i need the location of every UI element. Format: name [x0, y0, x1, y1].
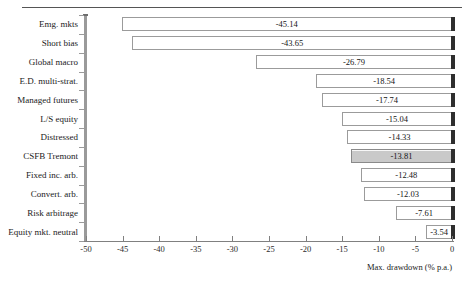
bar-value-label: -26.79	[257, 58, 451, 67]
x-axis-tick-label: -40	[154, 244, 165, 254]
y-axis-tick	[79, 222, 84, 223]
bar-value-label: -7.61	[397, 208, 451, 217]
x-axis-tick-label: -15	[337, 244, 348, 254]
x-axis-tick-label: -45	[117, 244, 128, 254]
category-label: E.D. multi-strat.	[2, 76, 78, 86]
bar-value-label: -15.04	[343, 114, 451, 123]
x-axis-tick	[452, 236, 453, 241]
bar-value-label: -12.03	[365, 189, 451, 198]
x-axis-tick	[196, 236, 197, 241]
y-axis-tick	[79, 109, 84, 110]
bar-value-label: -3.54	[427, 227, 451, 236]
bar: -12.48	[361, 168, 452, 182]
category-label: Fixed inc. arb.	[2, 170, 78, 180]
y-axis-tick	[79, 53, 84, 54]
bar: -26.79	[256, 55, 452, 69]
x-axis-tick-label: -30	[227, 244, 238, 254]
x-axis-tick-label: -25	[263, 244, 274, 254]
x-axis-tick-label: -20	[300, 244, 311, 254]
y-axis-tick	[79, 34, 84, 35]
x-axis-tick	[159, 236, 160, 241]
y-axis-tick	[79, 72, 84, 73]
x-axis-line	[84, 241, 454, 242]
category-label: Short bias	[2, 38, 78, 48]
bar-value-label: -14.33	[348, 133, 451, 142]
y-axis-tick	[79, 15, 84, 16]
bar-value-label: -18.54	[317, 76, 451, 85]
x-axis-tick	[269, 236, 270, 241]
category-label: CSFB Tremont	[2, 151, 78, 161]
x-axis-tick	[232, 236, 233, 241]
bar: -15.04	[342, 112, 452, 126]
y-axis-tick	[79, 147, 84, 148]
category-label: Risk arbitrage	[2, 208, 78, 218]
y-axis-tick	[79, 166, 84, 167]
y-axis-tick	[79, 128, 84, 129]
category-label: Convert. arb.	[2, 189, 78, 199]
category-label: Emg. mkts	[2, 19, 78, 29]
bar: -13.81	[351, 149, 452, 163]
x-axis-tick	[86, 236, 87, 241]
bar-value-label: -17.74	[323, 95, 451, 104]
x-axis-tick	[379, 236, 380, 241]
x-axis-tick-label: -5	[412, 244, 419, 254]
bar: -14.33	[347, 130, 452, 144]
x-axis-tick	[415, 236, 416, 241]
bar: -17.74	[322, 93, 452, 107]
x-axis-tick-label: -50	[80, 244, 91, 254]
bar: -18.54	[316, 74, 452, 88]
category-label: Managed futures	[2, 95, 78, 105]
x-axis-tick-label: 0	[450, 244, 454, 254]
category-label: Equity mkt. neutral	[2, 227, 78, 237]
x-axis-tick	[342, 236, 343, 241]
bar-value-label: -13.81	[352, 152, 451, 161]
bar: -43.65	[132, 36, 452, 50]
x-axis-tick-label: -10	[373, 244, 384, 254]
bar-value-label: -45.14	[123, 20, 451, 29]
x-axis-title: Max. drawdown (% p.a.)	[367, 262, 452, 272]
bar: -45.14	[122, 17, 452, 31]
bar-value-label: -12.48	[362, 171, 451, 180]
y-axis-tick	[79, 185, 84, 186]
y-axis-spine	[84, 14, 87, 242]
y-axis-tick	[79, 90, 84, 91]
x-axis-tick	[306, 236, 307, 241]
chart-figure: Emg. mktsShort biasGlobal macroE.D. mult…	[0, 0, 469, 284]
category-label: Distressed	[2, 132, 78, 142]
bar: -12.03	[364, 187, 452, 201]
bar: -3.54	[426, 225, 452, 239]
top-rule-divider	[22, 7, 462, 8]
category-label: L/S equity	[2, 114, 78, 124]
y-axis-tick	[79, 241, 84, 242]
category-axis-labels: Emg. mktsShort biasGlobal macroE.D. mult…	[0, 0, 78, 284]
x-axis-tick-label: -35	[190, 244, 201, 254]
category-label: Global macro	[2, 57, 78, 67]
x-axis-tick	[123, 236, 124, 241]
bar-value-label: -43.65	[133, 39, 451, 48]
bar: -7.61	[396, 206, 452, 220]
y-axis-tick	[79, 203, 84, 204]
